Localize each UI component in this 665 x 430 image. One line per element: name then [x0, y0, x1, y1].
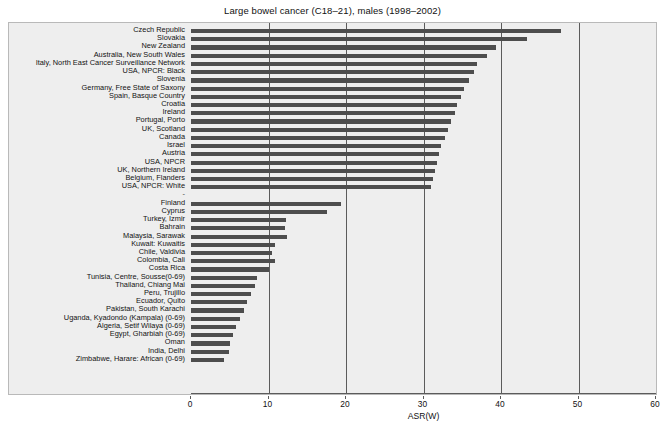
bar: [191, 333, 233, 337]
bar: [191, 317, 240, 321]
x-tick-label-10: 10: [263, 399, 272, 409]
bar: [191, 54, 487, 58]
bar: [191, 284, 255, 288]
bar: [191, 325, 236, 329]
bar: [191, 251, 272, 255]
bar: [191, 308, 244, 312]
bar: [191, 29, 561, 33]
bar: [191, 87, 464, 91]
bar: [191, 37, 527, 41]
bar: [191, 300, 247, 304]
bar: [191, 350, 229, 354]
bar: [191, 202, 341, 206]
bar: [191, 341, 230, 345]
bar: [191, 152, 439, 156]
bar: [191, 218, 286, 222]
bar: [191, 185, 431, 189]
x-tick-label-30: 30: [418, 399, 427, 409]
bar: [191, 45, 496, 49]
bar: [191, 292, 251, 296]
bar: [191, 62, 477, 66]
bar: [191, 276, 257, 280]
bar: [191, 267, 269, 271]
chart-page: Large bowel cancer (C18–21), males (1998…: [0, 0, 665, 430]
bar: [191, 103, 457, 107]
bar: [191, 119, 451, 123]
x-tick-label-40: 40: [495, 399, 504, 409]
bar-rows: Czech RepublicSlovakiaNew ZealandAustral…: [9, 23, 658, 396]
bar-row: Zimbabwe, Harare: African (0-69): [9, 356, 658, 364]
bar: [191, 136, 445, 140]
chart-title: Large bowel cancer (C18–21), males (1998…: [0, 5, 665, 16]
bar: [191, 111, 455, 115]
x-tick-label-20: 20: [340, 399, 349, 409]
bar: [191, 226, 285, 230]
bar: [191, 70, 474, 74]
bar: [191, 358, 224, 362]
bar: [191, 243, 275, 247]
bar: [191, 161, 437, 165]
bar: [191, 177, 433, 181]
bar-row-label: Zimbabwe, Harare: African (0-69): [9, 355, 185, 364]
bar: [191, 169, 435, 173]
bar: [191, 78, 469, 82]
bar: [191, 95, 461, 99]
bar: [191, 144, 441, 148]
bar: [191, 259, 275, 263]
bar: [191, 210, 327, 214]
bar: [191, 128, 448, 132]
x-tick-label-50: 50: [573, 399, 582, 409]
plot-frame: Czech RepublicSlovakiaNew ZealandAustral…: [8, 22, 657, 395]
x-axis-ticks: 0102030405060: [8, 396, 657, 410]
bar: [191, 235, 287, 239]
x-axis-title-label: ASR(W): [408, 411, 440, 421]
x-tick-label-60: 60: [650, 399, 659, 409]
x-axis-title: ASR(W): [8, 411, 657, 421]
x-tick-label-0: 0: [188, 399, 193, 409]
